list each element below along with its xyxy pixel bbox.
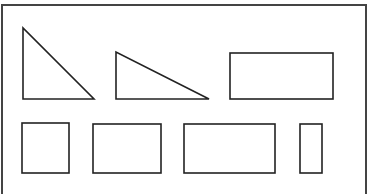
shapes-diagram (0, 0, 368, 194)
rectangle-shape-3 (230, 53, 333, 99)
right-triangle-shape-2 (116, 52, 209, 99)
shapes-group (22, 28, 333, 173)
right-triangle-shape-1 (23, 28, 94, 99)
square-shape-4 (22, 123, 69, 173)
rectangle-shape-6 (184, 124, 275, 173)
rectangle-shape-7 (300, 124, 322, 173)
rectangle-shape-5 (93, 124, 161, 173)
